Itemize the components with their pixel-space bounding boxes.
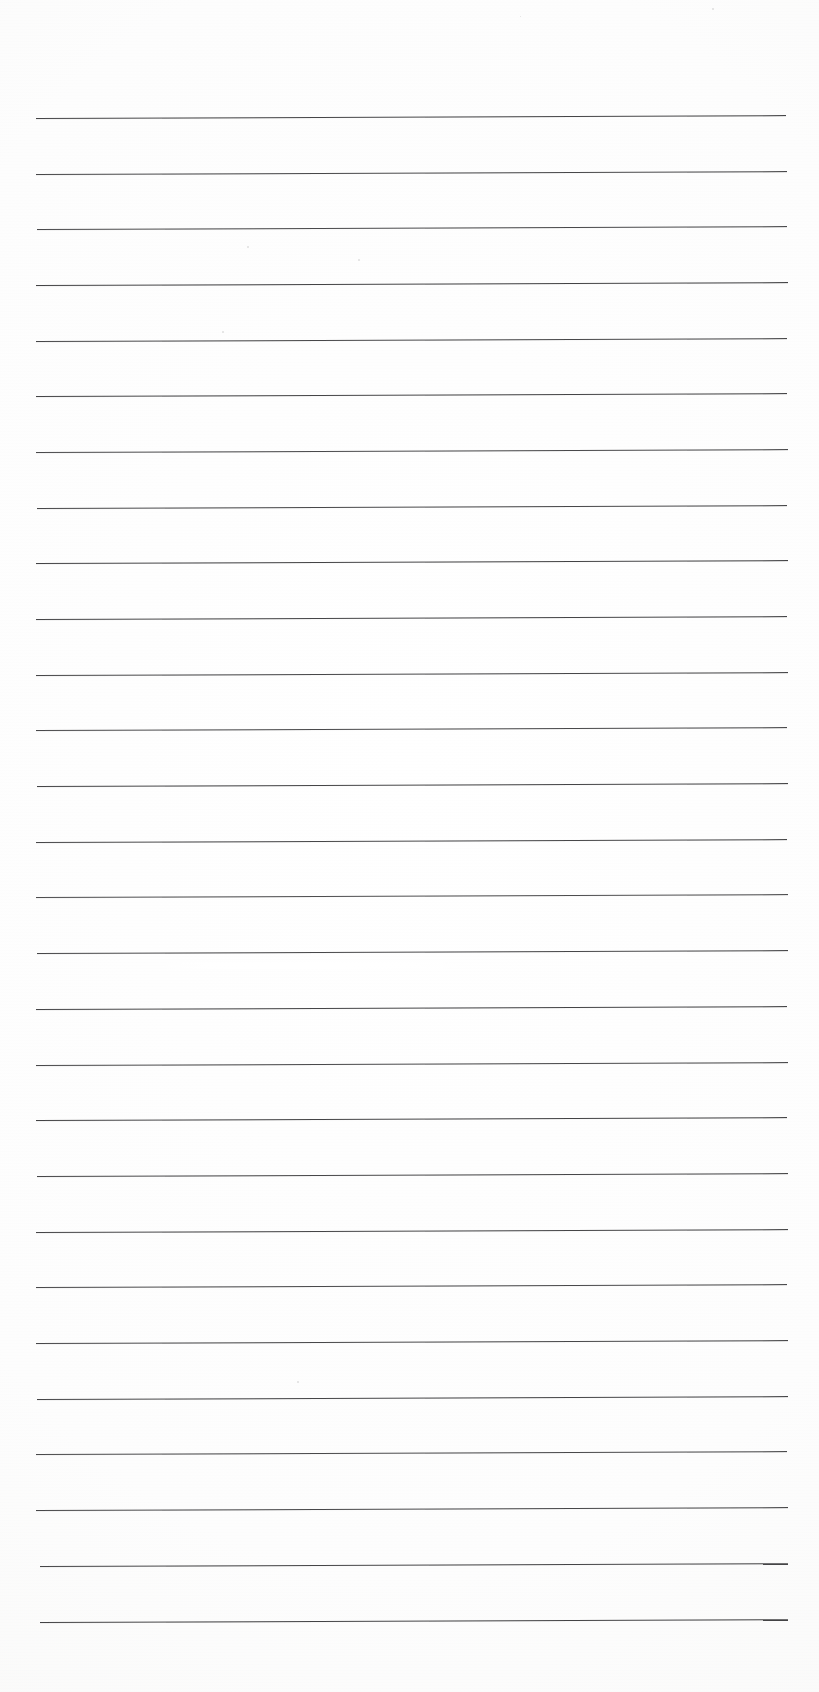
scanned-page bbox=[0, 0, 819, 1692]
writing-area[interactable] bbox=[36, 100, 788, 1640]
